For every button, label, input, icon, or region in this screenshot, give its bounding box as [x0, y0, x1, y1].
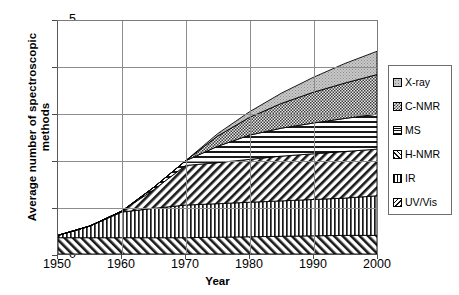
x-tick-label-1970: 1970 [162, 258, 208, 271]
legend-item-c-nmr[interactable]: C-NMR [393, 94, 451, 118]
legend-item-x-ray[interactable]: X-ray [393, 70, 451, 94]
legend-swatch-c-nmr-icon [393, 102, 402, 111]
legend-swatch-uv-vis-icon [393, 198, 402, 207]
x-tick-label-1950: 1950 [34, 258, 80, 271]
gridline-y-2 [58, 161, 377, 162]
plot-area [57, 20, 378, 255]
legend-item-ir[interactable]: IR [393, 166, 451, 190]
y-axis-title-line-1: Average number of spectroscopic [26, 33, 39, 222]
stacked-area-svg [58, 21, 377, 254]
gridline-y-4 [58, 67, 377, 68]
legend-swatch-x-ray-icon [393, 78, 402, 87]
legend-label-c-nmr: C-NMR [405, 101, 440, 112]
x-tick-label-1980: 1980 [226, 258, 272, 271]
legend-label-x-ray: X-ray [405, 77, 430, 88]
legend-item-h-nmr[interactable]: H-NMR [393, 142, 451, 166]
x-tick-label-1990: 1990 [290, 258, 336, 271]
legend-label-h-nmr: H-NMR [405, 149, 440, 160]
legend-swatch-ir-icon [393, 174, 402, 183]
legend-swatch-h-nmr-icon [393, 150, 402, 159]
gridline-y-3 [58, 114, 377, 115]
legend: X-ray C-NMR MS H-NMR IR UV/Vis [388, 65, 452, 215]
legend-label-ms: MS [405, 125, 421, 136]
legend-item-uv-vis[interactable]: UV/Vis [393, 190, 451, 214]
gridline-x-1970 [186, 21, 187, 254]
area-series-uv-vis [58, 235, 377, 254]
legend-label-uv-vis: UV/Vis [405, 197, 437, 208]
legend-label-ir: IR [405, 173, 416, 184]
gridline-x-1980 [250, 21, 251, 254]
legend-swatch-ms-icon [393, 126, 402, 135]
gridline-y-1 [58, 208, 377, 209]
x-tick-label-2000: 2000 [354, 258, 400, 271]
gridline-x-1960 [122, 21, 123, 254]
chart-figure: Average number of spectroscopic methods … [0, 0, 459, 295]
legend-item-ms[interactable]: MS [393, 118, 451, 142]
gridline-x-1990 [314, 21, 315, 254]
x-axis-title: Year [57, 275, 378, 287]
x-tick-label-1960: 1960 [98, 258, 144, 271]
